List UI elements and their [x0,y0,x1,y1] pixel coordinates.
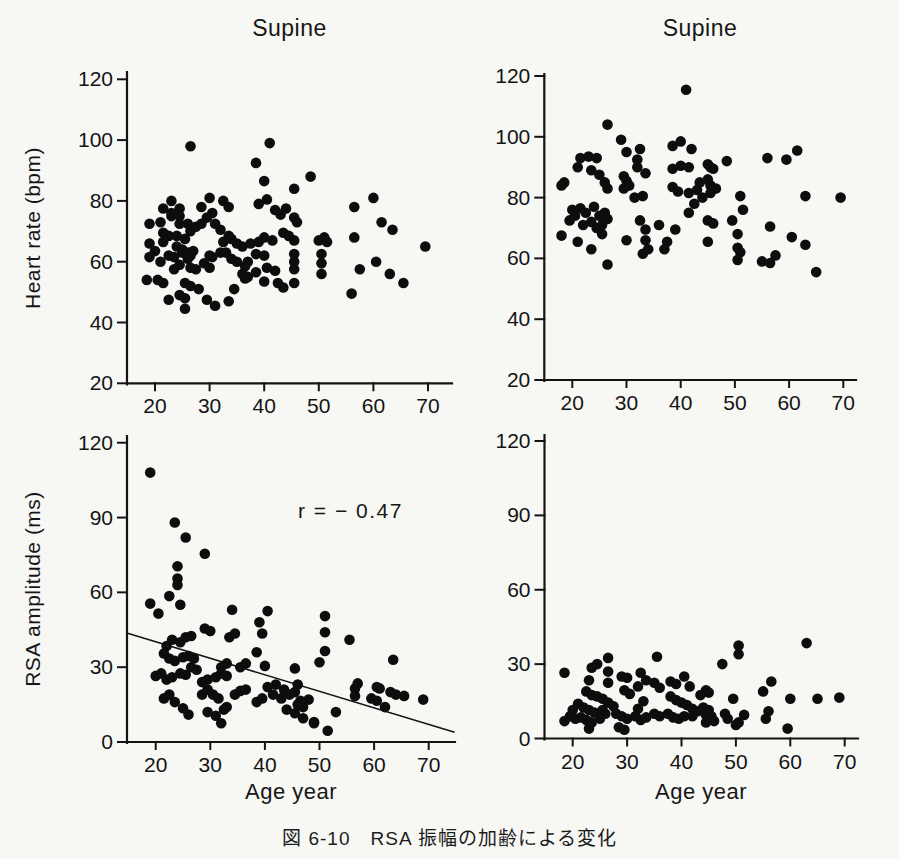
rsa-amplitude-right-scatter-point [592,659,603,670]
heart-rate-left-scatter-point [229,284,240,295]
rsa-amplitude-left-scatter-point [180,669,191,680]
rsa-amplitude-left-scatter-point [399,691,410,702]
x-axis-label-age-left: Age year [127,779,455,805]
heart-rate-left-scatter-point [240,261,251,272]
heart-rate-right-scatter-point [684,162,695,173]
heart-rate-right-scatter-point [635,144,646,155]
rsa-amplitude-left-x-tick-label: 50 [308,753,331,776]
heart-rate-left-scatter-point [270,266,281,277]
rsa-amplitude-left-scatter-point [254,617,265,628]
heart-rate-right-y-tick-label: 60 [507,246,530,269]
rsa-amplitude-right-y-tick-label: 0 [519,727,531,750]
rsa-amplitude-left-scatter-point [191,664,202,675]
rsa-amplitude-left-scatter-point [260,661,271,672]
rsa-amplitude-left-scatter-point [205,626,216,637]
heart-rate-left-scatter-point [155,256,166,267]
heart-rate-left-scatter-point [371,256,382,267]
heart-rate-right-x-tick-label: 50 [723,391,746,414]
heart-rate-left-x-tick-label: 30 [198,394,221,417]
rsa-amplitude-right-scatter-point [758,686,769,697]
rsa-amplitude-right-y-tick-label: 60 [507,578,530,601]
rsa-amplitude-left-scatter-point [172,561,183,572]
rsa-amplitude-left-scatter-point [164,591,175,602]
heart-rate-left-scatter-point [144,238,155,249]
rsa-amplitude-right-scatter-point [625,689,636,700]
rsa-amplitude-left-scatter-point [153,608,164,619]
heart-rate-right-scatter-point [640,235,651,246]
heart-rate-right-scatter-point [638,191,649,202]
rsa-amplitude-left-y-tick-label: 30 [90,655,113,678]
heart-rate-right-scatter-point [659,244,670,255]
rsa-amplitude-right-scatter-point [671,679,682,690]
heart-rate-right-x-tick-label: 20 [561,391,584,414]
heart-rate-left-scatter-point [223,296,234,307]
heart-rate-left-scatter-point [376,217,387,228]
heart-rate-left-scatter-point [398,278,409,289]
rsa-amplitude-left-scatter-point [350,691,361,702]
heart-rate-left-x-tick-label: 60 [362,394,385,417]
rsa-amplitude-left-scatter-point [241,658,252,669]
heart-rate-left-y-tick-label: 20 [90,371,113,394]
rsa-amplitude-right-scatter-point [567,705,578,716]
rsa-amplitude-right-scatter-point [761,713,772,724]
rsa-amplitude-left-scatter-point [230,628,241,639]
heart-rate-left-x-tick-label: 40 [253,394,276,417]
rsa-amplitude-right-scatter-point [622,673,633,684]
heart-rate-left-scatter-point [204,193,215,204]
heart-rate-left-y-tick-label: 120 [78,67,113,90]
rsa-amplitude-left-regression-line [128,634,453,733]
heart-rate-left-scatter-point [158,278,169,289]
heart-rate-right-scatter-point [619,183,630,194]
rsa-amplitude-left-scatter-point [200,548,211,559]
rsa-amplitude-left-y-tick-label: 0 [101,730,113,753]
rsa-amplitude-left-x-tick-label: 20 [144,753,167,776]
correlation-annotation: r = − 0.47 [248,499,453,523]
heart-rate-right-x-tick-label: 40 [669,391,692,414]
heart-rate-right-scatter-point [735,191,746,202]
y-axis-label-rsa-amplitude: RSA amplitude (ms) [21,491,45,687]
rsa-amplitude-right-scatter-point [652,651,663,662]
heart-rate-left-scatter-point [142,275,153,286]
rsa-amplitude-left-scatter-point [145,598,156,609]
heart-rate-right-scatter-point [602,119,613,130]
heart-rate-right-y-tick-label: 100 [495,125,530,148]
y-axis-label-heart-rate: Heart rate (bpm) [21,147,45,309]
rsa-amplitude-left-scatter-point [216,718,227,729]
heart-rate-right-scatter-point [572,236,583,247]
heart-rate-left-scatter-point [420,241,431,252]
heart-rate-left-scatter-point [207,252,218,263]
heart-rate-right-scatter-point [708,163,719,174]
x-axis-label-age-right: Age year [544,779,858,805]
rsa-amplitude-right-scatter-point [654,682,665,693]
heart-rate-left-scatter-point [292,217,303,228]
heart-rate-right-scatter-point [556,230,567,241]
rsa-amplitude-right-scatter-point [782,723,793,734]
rsa-amplitude-right-scatter-point [728,694,739,705]
heart-rate-right-scatter-point [703,236,714,247]
panel-title-top-left: Supine [127,15,452,42]
heart-rate-right-scatter-point [727,215,738,226]
rsa-amplitude-right-scatter-point [709,716,720,727]
heart-rate-left-scatter-point [385,269,396,280]
heart-rate-left-scatter-point [158,237,169,248]
heart-rate-right-scatter-point [835,192,846,203]
heart-rate-right-scatter-point [570,211,581,222]
rsa-amplitude-left-scatter-point [221,658,232,669]
heart-rate-left-scatter-point [349,232,360,243]
heart-rate-right-scatter-point [638,249,649,260]
heart-rate-left-scatter-point [264,138,275,149]
heart-rate-right-scatter-point [640,168,651,179]
rsa-amplitude-left-scatter-point [344,634,355,645]
rsa-amplitude-right-y-tick-label: 90 [507,503,530,526]
heart-rate-right-scatter-point [675,136,686,147]
rsa-amplitude-right-x-tick-label: 20 [561,750,584,773]
heart-rate-left-scatter-point [259,276,270,287]
heart-rate-right-scatter-point [765,221,776,232]
heart-rate-right-scatter-point [792,145,803,156]
heart-rate-left-y-tick-label: 80 [90,189,113,212]
heart-rate-right-scatter-point [738,205,749,216]
heart-rate-right-scatter-point [589,201,600,212]
heart-rate-right-scatter-point [621,235,632,246]
heart-rate-left-scatter-point [349,202,360,213]
heart-rate-left-scatter-point [185,250,196,261]
